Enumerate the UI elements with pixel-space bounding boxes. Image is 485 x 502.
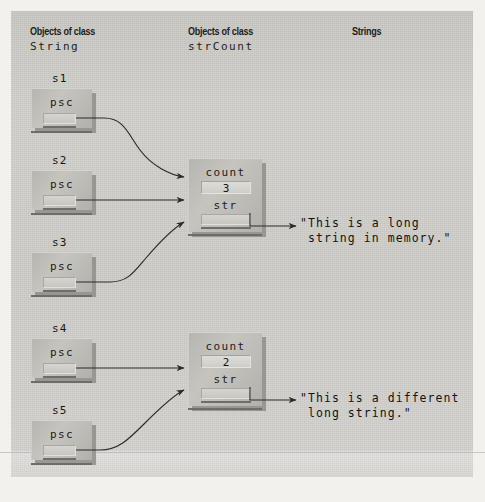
object-body: psc xyxy=(31,420,92,460)
strcount-object-2: count 2 str xyxy=(188,332,262,406)
pointer-slot-s5 xyxy=(43,445,76,456)
object-base-rule-s1 xyxy=(31,131,92,133)
var-label-s4: s4 xyxy=(52,322,68,335)
pointer-slot-s1 xyxy=(43,113,76,124)
string-object-s2: psc xyxy=(31,170,92,210)
object-base-rule-strcount-1 xyxy=(188,234,262,236)
column-heading-string-class: String xyxy=(30,41,106,53)
string-object-s4: psc xyxy=(31,338,92,378)
pointer-slot-underline-s2 xyxy=(43,208,76,210)
count-value-2: 2 xyxy=(201,355,251,368)
object-body: psc xyxy=(31,252,92,292)
str-pointer-slot-2 xyxy=(201,388,251,399)
count-label-1: count xyxy=(189,166,262,179)
object-body: psc xyxy=(31,338,92,378)
column-heading-strcount-kicker: Objects of class xyxy=(188,26,253,37)
reference-counting-diagram: Objects of class String Objects of class… xyxy=(0,0,485,502)
string-literal-1: "This is a long string in memory." xyxy=(300,216,452,246)
string-object-s5: psc xyxy=(31,420,92,460)
field-label-psc-s5: psc xyxy=(32,428,92,441)
string-object-s3: psc xyxy=(31,252,92,292)
object-base-rule-s3 xyxy=(31,295,92,297)
object-base-rule-strcount-2 xyxy=(188,408,262,410)
field-label-psc-s2: psc xyxy=(32,178,92,191)
column-heading-strcount-class: strCount xyxy=(188,41,264,53)
field-label-psc-s3: psc xyxy=(32,260,92,273)
pointer-slot-underline-s3 xyxy=(43,290,76,292)
column-heading-string-kicker: Objects of class xyxy=(30,26,95,37)
field-label-psc-s1: psc xyxy=(32,96,92,109)
var-label-s2: s2 xyxy=(52,154,68,167)
strcount-object-1: count 3 str xyxy=(188,158,262,232)
var-label-s3: s3 xyxy=(52,236,68,249)
str-pointer-slot-underline-2 xyxy=(201,401,251,403)
string-literal-2: "This is a different long string." xyxy=(300,391,459,421)
str-label-2: str xyxy=(189,373,262,386)
string-literal-2-line1: "This is a different xyxy=(300,391,459,405)
string-literal-2-line2: long string." xyxy=(300,406,412,420)
column-heading-strings: Strings xyxy=(352,26,386,37)
object-body: psc xyxy=(31,88,92,128)
count-label-2: count xyxy=(189,340,262,353)
object-body: count 3 str xyxy=(188,158,262,232)
object-body: count 2 str xyxy=(188,332,262,406)
pointer-slot-s3 xyxy=(43,277,76,288)
count-value-1: 3 xyxy=(201,181,251,194)
column-heading-string: Objects of class String xyxy=(30,26,106,53)
str-pointer-slot-1 xyxy=(201,214,251,225)
pointer-slot-underline-s4 xyxy=(43,376,76,378)
object-base-rule-s4 xyxy=(31,381,92,383)
var-label-s1: s1 xyxy=(52,72,68,85)
pointer-slot-underline-s5 xyxy=(43,458,76,460)
object-base-rule-s2 xyxy=(31,213,92,215)
string-object-s1: psc xyxy=(31,88,92,128)
string-literal-1-line2: string in memory." xyxy=(300,231,452,245)
object-base-rule-s5 xyxy=(31,463,92,465)
pointer-slot-s4 xyxy=(43,363,76,374)
column-heading-strcount: Objects of class strCount xyxy=(188,26,264,53)
object-body: psc xyxy=(31,170,92,210)
str-pointer-slot-underline-1 xyxy=(201,227,251,229)
string-literal-1-line1: "This is a long xyxy=(300,216,420,230)
pointer-slot-s2 xyxy=(43,195,76,206)
var-label-s5: s5 xyxy=(52,404,68,417)
field-label-psc-s4: psc xyxy=(32,346,92,359)
str-label-1: str xyxy=(189,199,262,212)
column-heading-strings-kicker: Strings xyxy=(352,26,381,37)
pointer-slot-underline-s1 xyxy=(43,126,76,128)
